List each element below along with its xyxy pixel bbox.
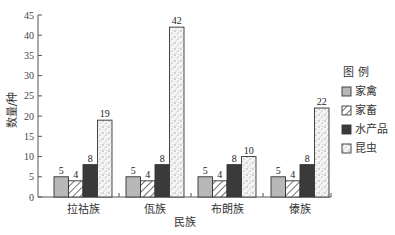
bar-value-label: 5 xyxy=(203,165,208,176)
bar-家禽 xyxy=(126,177,141,197)
bar-水产品 xyxy=(155,165,170,197)
y-tick-label: 15 xyxy=(24,131,34,142)
legend-label: 家畜 xyxy=(355,103,377,117)
legend-swatch xyxy=(342,144,351,153)
bar-value-label: 4 xyxy=(145,169,150,180)
x-axis-label: 民族 xyxy=(174,215,196,229)
bar-value-label: 4 xyxy=(73,169,78,180)
bar-家禽 xyxy=(271,177,286,197)
y-tick-label: 30 xyxy=(24,70,34,81)
bar-value-label: 4 xyxy=(290,169,295,180)
x-category-label: 佤族 xyxy=(144,202,166,216)
legend-swatch xyxy=(342,87,351,96)
bar-家畜 xyxy=(69,181,84,197)
bar-value-label: 8 xyxy=(305,153,310,164)
legend-swatch xyxy=(342,125,351,134)
bar-家畜 xyxy=(213,181,228,197)
x-category-label: 拉祜族 xyxy=(67,202,100,216)
bar-家禽 xyxy=(54,177,69,197)
bar-value-label: 8 xyxy=(88,153,93,164)
bar-value-label: 8 xyxy=(232,153,237,164)
bar-家畜 xyxy=(141,181,156,197)
bar-chart: 051015202530354045 拉祜族佤族布朗族傣族 5481954842… xyxy=(0,0,395,235)
bar-value-label: 42 xyxy=(172,15,182,26)
bar-水产品 xyxy=(83,165,98,197)
y-tick-label: 25 xyxy=(24,90,34,101)
bar-value-label: 5 xyxy=(59,165,64,176)
bar-昆虫 xyxy=(98,120,113,197)
y-tick-label: 5 xyxy=(29,171,34,182)
legend-swatch xyxy=(342,106,351,115)
y-tick-label: 40 xyxy=(24,30,34,41)
bar-value-label: 5 xyxy=(131,165,136,176)
bar-昆虫 xyxy=(315,108,330,197)
legend-title: 图 例 xyxy=(343,65,369,79)
y-tick-label: 0 xyxy=(29,192,34,203)
bar-value-label: 5 xyxy=(276,165,281,176)
y-tick-label: 45 xyxy=(24,10,34,21)
bar-水产品 xyxy=(227,165,242,197)
bar-value-label: 19 xyxy=(100,108,110,119)
y-tick-label: 35 xyxy=(24,50,34,61)
y-tick-label: 10 xyxy=(24,151,34,162)
x-category-label: 傣族 xyxy=(289,202,311,216)
x-category-label: 布朗族 xyxy=(211,202,244,216)
bar-value-label: 4 xyxy=(217,169,222,180)
bar-value-label: 22 xyxy=(317,96,327,107)
bar-家畜 xyxy=(286,181,301,197)
legend: 图 例 家禽家畜水产品昆虫 xyxy=(342,65,388,155)
bar-水产品 xyxy=(300,165,315,197)
bar-value-label: 8 xyxy=(160,153,165,164)
bar-家禽 xyxy=(198,177,213,197)
legend-label: 水产品 xyxy=(355,122,388,136)
y-axis-label: 数量/种 xyxy=(5,92,19,129)
bar-昆虫 xyxy=(170,27,185,197)
bar-value-label: 10 xyxy=(244,145,254,156)
legend-label: 昆虫 xyxy=(355,142,377,155)
bar-昆虫 xyxy=(242,157,257,197)
y-axis: 051015202530354045 xyxy=(24,10,42,203)
y-tick-label: 20 xyxy=(24,111,34,122)
legend-label: 家禽 xyxy=(355,84,377,98)
bars xyxy=(54,27,329,197)
